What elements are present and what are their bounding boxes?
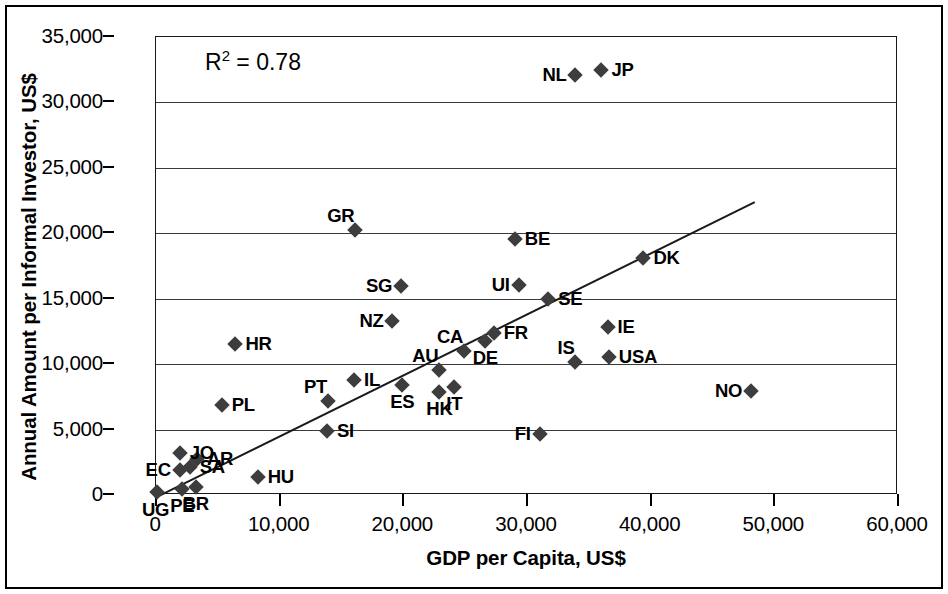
data-point-label-JP: JP bbox=[611, 59, 633, 81]
data-point-label-PT: PT bbox=[304, 376, 327, 398]
y-tick-label-10000: 10,000 bbox=[41, 351, 103, 375]
x-tick-label-20000: 20,000 bbox=[372, 512, 434, 536]
data-point-label-SE: SE bbox=[558, 288, 582, 310]
data-point-label-IS: IS bbox=[558, 337, 575, 359]
y-tick-mark-5000 bbox=[103, 428, 114, 430]
y-tick-mark-30000 bbox=[103, 100, 114, 102]
y-tick-mark-20000 bbox=[103, 231, 114, 233]
data-point-label-ES: ES bbox=[390, 391, 414, 413]
x-tick-label-60000: 60,000 bbox=[866, 512, 928, 536]
y-axis: 05,00010,00015,00020,00025,00030,00035,0… bbox=[0, 0, 155, 594]
data-point-label-DK: DK bbox=[653, 247, 679, 269]
data-point-label-DE: DE bbox=[473, 347, 498, 369]
data-point-label-NZ: NZ bbox=[359, 310, 383, 332]
data-point-label-FI: FI bbox=[515, 423, 531, 445]
r-squared-value: 0.78 bbox=[256, 49, 301, 75]
x-tick-label-10000: 10,000 bbox=[248, 512, 310, 536]
gridline-y-25000 bbox=[156, 168, 896, 169]
x-tick-mark-40000 bbox=[650, 494, 652, 506]
data-point-label-NO: NO bbox=[715, 380, 742, 402]
data-point-label-GR: GR bbox=[327, 205, 354, 227]
data-point-label-UG: UG bbox=[142, 499, 169, 521]
y-tick-label-25000: 25,000 bbox=[41, 155, 103, 179]
r-squared-annotation: R2 = 0.78 bbox=[205, 47, 301, 76]
y-tick-mark-35000 bbox=[103, 35, 114, 37]
data-point-label-HU: HU bbox=[268, 466, 294, 488]
data-point-label-IE: IE bbox=[618, 316, 635, 338]
x-tick-mark-50000 bbox=[773, 494, 775, 506]
data-point-label-EC: EC bbox=[146, 459, 171, 481]
gridline-y-15000 bbox=[156, 299, 896, 300]
y-tick-label-15000: 15,000 bbox=[41, 286, 103, 310]
data-point-label-CA: CA bbox=[437, 326, 463, 348]
y-tick-label-30000: 30,000 bbox=[41, 89, 103, 113]
x-tick-label-40000: 40,000 bbox=[619, 512, 681, 536]
data-point-label-PL: PL bbox=[232, 394, 255, 416]
data-point-label-AU: AU bbox=[412, 345, 438, 367]
y-tick-label-5000: 5,000 bbox=[53, 417, 103, 441]
data-point-label-BE: BE bbox=[525, 228, 550, 250]
y-tick-mark-15000 bbox=[103, 297, 114, 299]
data-point-label-SG: SG bbox=[366, 275, 392, 297]
y-tick-label-0: 0 bbox=[92, 482, 103, 506]
data-point-label-JO: JO bbox=[190, 442, 214, 464]
data-point-label-IL: IL bbox=[364, 369, 380, 391]
y-tick-mark-10000 bbox=[103, 362, 114, 364]
data-point-label-IT: IT bbox=[446, 393, 462, 415]
y-tick-label-35000: 35,000 bbox=[41, 24, 103, 48]
x-tick-label-30000: 30,000 bbox=[495, 512, 557, 536]
data-point-label-BR: BR bbox=[183, 493, 209, 515]
y-tick-mark-25000 bbox=[103, 166, 114, 168]
data-point-label-UI: UI bbox=[492, 274, 510, 296]
x-tick-label-50000: 50,000 bbox=[743, 512, 805, 536]
x-tick-mark-30000 bbox=[526, 494, 528, 506]
x-axis-title: GDP per Capita, US$ bbox=[155, 546, 897, 570]
gridline-y-30000 bbox=[156, 102, 896, 103]
gridline-y-10000 bbox=[156, 364, 896, 365]
data-point-label-NL: NL bbox=[542, 64, 566, 86]
data-point-label-SI: SI bbox=[337, 420, 354, 442]
data-point-label-FR: FR bbox=[504, 322, 528, 344]
x-tick-mark-20000 bbox=[402, 494, 404, 506]
y-tick-mark-0 bbox=[103, 493, 114, 495]
x-tick-mark-10000 bbox=[279, 494, 281, 506]
x-tick-mark-60000 bbox=[897, 494, 899, 506]
data-point-label-USA: USA bbox=[619, 346, 657, 368]
data-point-label-HR: HR bbox=[245, 333, 271, 355]
y-tick-label-20000: 20,000 bbox=[41, 220, 103, 244]
scatter-chart-figure: Annual Amount per Informal Investor, US$… bbox=[0, 0, 948, 594]
